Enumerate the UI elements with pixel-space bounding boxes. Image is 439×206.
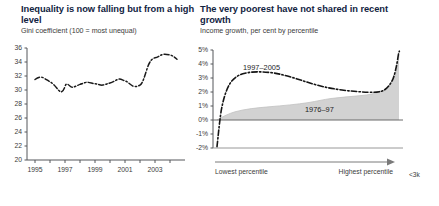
corner-note: <3k [409,171,420,178]
figure-root: Inequality is now falling but from a hig… [0,0,439,206]
x-tick-label: 1997 [57,166,72,173]
y-tick-label: 32 [14,72,22,79]
y-tick-label: 3% [198,74,208,81]
right-chart-subtitle: Income growth, per cent by percentile [200,27,400,36]
percentile-direction-arrow [215,159,395,166]
gini-chart-svg: 36 34 32 30 28 26 24 22 20 [27,48,187,176]
y-tick-label: -2% [196,144,208,151]
y-tick-label: 26 [14,114,22,121]
y-tick-label: 24 [14,128,22,135]
y-tick-labels: 36 34 32 30 28 26 24 22 20 [14,44,22,163]
y-tick-label: 0% [198,116,208,123]
growth-chart-plot: 5% 4% 3% 2% 1% 0% -1% -2% [213,50,406,175]
y-tick-label: 4% [198,60,208,67]
y-tick-label: 2% [198,88,208,95]
right-chart-header: The very poorest have not shared in rece… [200,4,400,36]
x-tick-labels: 1995 1997 1999 2001 2003 [27,166,162,173]
left-chart-panel: Inequality is now falling but from a hig… [0,0,200,206]
x-tick-label: 1999 [87,166,102,173]
right-chart-panel: The very poorest have not shared in rece… [200,0,439,206]
x-tick-label: 2001 [117,166,132,173]
y-tick-label: 20 [14,156,22,163]
x-tick-label: 2003 [147,166,162,173]
growth-chart-svg: 5% 4% 3% 2% 1% 0% -1% -2% [213,50,413,182]
series-annotation-1997-2005: 1997–2005 [243,63,280,72]
right-chart-title: The very poorest have not shared in rece… [200,4,400,26]
gini-chart-plot: 36 34 32 30 28 26 24 22 20 [27,48,187,173]
gini-series-line [35,54,177,92]
y-tick-label: 5% [198,46,208,53]
y-tick-label: 22 [14,142,22,149]
y-tick-label: 30 [14,86,22,93]
x-tick-label: 1995 [27,166,42,173]
y-tick-label: 34 [14,58,22,65]
axis-end-label: Highest percentile [339,168,394,176]
left-chart-subtitle: Gini coefficient (100 = most unequal) [21,27,196,36]
y-tick-label: 1% [198,102,208,109]
left-chart-title: Inequality is now falling but from a hig… [21,4,196,26]
series-annotation-1976-97: 1976–97 [305,105,334,114]
y-tick-label: 36 [14,44,22,51]
y-tick-label: 28 [14,100,22,107]
y-tick-label: -1% [196,130,208,137]
left-chart-header: Inequality is now falling but from a hig… [21,4,196,36]
axis-start-label: Lowest percentile [215,168,268,176]
